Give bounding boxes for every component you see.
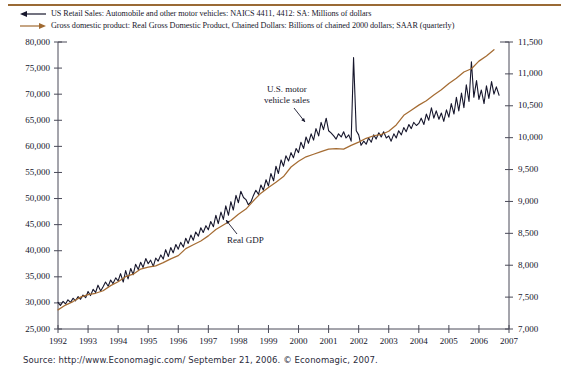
x-axis-tick-label: 2000 <box>283 337 315 346</box>
legend-item-retail-sales: US Retail Sales: Automobile and other mo… <box>20 8 560 19</box>
top-rule-divider <box>8 4 561 6</box>
y-axis-right-tick-label: 8,000 <box>518 261 538 270</box>
y-axis-right-tick-label: 8,500 <box>518 229 538 238</box>
y-axis-right-tick-label: 9,000 <box>518 197 538 206</box>
motor-vehicle-sales-annotation-line2: vehicle sales <box>264 95 310 106</box>
motor-vehicle-sales-annotation-line1: U.S. motor <box>264 84 310 95</box>
x-axis-tick-label: 1995 <box>132 337 164 346</box>
y-axis-left-tick-label: 25,000 <box>0 325 50 334</box>
x-axis-tick-label: 1999 <box>252 337 284 346</box>
y-axis-left-tick-label: 30,000 <box>0 298 50 307</box>
y-axis-right-tick-label: 11,000 <box>518 69 542 78</box>
plot-area: 25,00030,00035,00040,00045,00050,00055,0… <box>0 36 569 342</box>
y-axis-right-tick-label: 10,000 <box>518 133 543 142</box>
x-axis-tick-label: 2006 <box>463 337 495 346</box>
chart-canvas <box>0 36 569 342</box>
y-axis-left-tick-label: 75,000 <box>0 64 50 73</box>
y-axis-left-tick-label: 60,000 <box>0 142 50 151</box>
y-axis-left-tick-label: 80,000 <box>0 38 50 47</box>
y-axis-left-tick-label: 55,000 <box>0 168 50 177</box>
legend-line-arrow-right-icon <box>20 21 46 31</box>
x-axis-tick-label: 2004 <box>403 337 435 346</box>
x-axis-tick-label: 1994 <box>102 337 134 346</box>
x-axis-tick-label: 1997 <box>192 337 224 346</box>
x-axis-tick-label: 2001 <box>313 337 345 346</box>
y-axis-right-tick-label: 11,500 <box>518 38 542 47</box>
chart-page: US Retail Sales: Automobile and other mo… <box>0 0 569 373</box>
y-axis-left-tick-label: 40,000 <box>0 246 50 255</box>
x-axis-tick-label: 1996 <box>162 337 194 346</box>
legend-label-retail-sales: US Retail Sales: Automobile and other mo… <box>51 9 371 19</box>
x-axis-tick-label: 2007 <box>493 337 525 346</box>
real-gdp-annotation: Real GDP <box>227 235 264 246</box>
real-gdp-leader-arrow-icon <box>226 220 237 234</box>
x-axis-tick-label: 2003 <box>373 337 405 346</box>
real-gdp-annotation-line1: Real GDP <box>227 235 264 246</box>
legend-item-gdp: Gross domestic product: Real Gross Domes… <box>20 20 560 31</box>
y-axis-left-tick-label: 45,000 <box>0 220 50 229</box>
y-axis-left-tick-label: 65,000 <box>0 116 50 125</box>
motor-vehicle-sales-annotation: U.S. motor vehicle sales <box>264 84 310 106</box>
y-axis-right-tick-label: 7,500 <box>518 293 538 302</box>
legend-label-gdp: Gross domestic product: Real Gross Domes… <box>51 21 454 31</box>
y-axis-right-tick-label: 7,000 <box>518 325 538 334</box>
x-axis-tick-label: 2005 <box>433 337 465 346</box>
legend-line-arrow-left-icon <box>20 9 46 19</box>
motor-vehicle-sales-leader-arrow-icon <box>294 108 305 122</box>
y-axis-right-tick-label: 9,500 <box>518 165 538 174</box>
chart-legend: US Retail Sales: Automobile and other mo… <box>20 8 560 32</box>
y-axis-right-tick-label: 10,500 <box>518 101 543 110</box>
source-note: Source: http://www.Economagic.com/ Septe… <box>23 355 378 365</box>
x-axis-tick-label: 2002 <box>343 337 375 346</box>
x-axis-tick-label: 1992 <box>42 337 74 346</box>
x-axis-tick-label: 1998 <box>222 337 254 346</box>
y-axis-left-tick-label: 50,000 <box>0 194 50 203</box>
y-axis-left-tick-label: 35,000 <box>0 272 50 281</box>
y-axis-left-tick-label: 70,000 <box>0 90 50 99</box>
x-axis-tick-label: 1993 <box>72 337 104 346</box>
